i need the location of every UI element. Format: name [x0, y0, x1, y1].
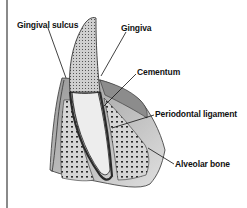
- label-gingiva: Gingiva: [121, 23, 151, 33]
- label-gingival-sulcus: Gingival sulcus: [17, 20, 78, 30]
- label-alveolar-bone: Alveolar bone: [175, 159, 230, 169]
- label-cementum: Cementum: [137, 67, 180, 77]
- label-periodontal-ligament: Periodontal ligament: [155, 109, 237, 119]
